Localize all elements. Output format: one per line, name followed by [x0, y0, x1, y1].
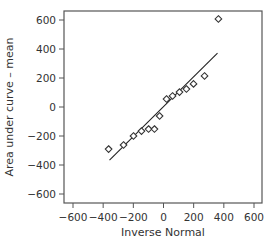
- y-axis-label: Area under curve – mean: [3, 37, 16, 176]
- x-tick-label: −200: [119, 211, 148, 223]
- qq-scatter-chart: −600−400−2000200400600 −600−400−20002004…: [0, 0, 279, 246]
- y-tick-label: 0: [49, 101, 56, 113]
- x-tick-label: 400: [214, 211, 234, 223]
- y-tick-label: −200: [27, 130, 56, 142]
- x-tick-label: 600: [244, 211, 264, 223]
- y-tick-label: 200: [36, 72, 56, 84]
- y-axis-ticks: −600−400−2000200400600: [27, 14, 64, 200]
- y-tick-label: −600: [27, 188, 56, 200]
- y-tick-label: 600: [36, 14, 56, 26]
- x-tick-label: 0: [160, 211, 167, 223]
- x-tick-label: 200: [184, 211, 204, 223]
- x-axis-ticks: −600−400−2000200400600: [59, 203, 264, 223]
- y-tick-label: −400: [27, 159, 56, 171]
- x-tick-label: −400: [89, 211, 118, 223]
- x-axis-label: Inverse Normal: [121, 226, 205, 239]
- y-tick-label: 400: [36, 43, 56, 55]
- x-tick-label: −600: [59, 211, 88, 223]
